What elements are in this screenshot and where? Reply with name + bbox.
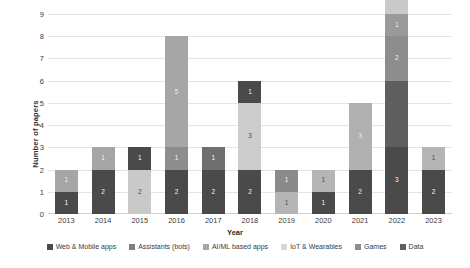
y-axis-tick-0: 0 <box>40 210 44 219</box>
bar-segment-value: 2 <box>432 189 436 196</box>
bar-stack: 21 <box>128 147 151 214</box>
legend-swatch-icon <box>281 244 287 250</box>
bar-segment[interactable]: 1 <box>92 147 115 169</box>
bar-segment[interactable]: 2 <box>385 36 408 80</box>
bar-segment[interactable]: 1 <box>165 147 188 169</box>
bar-segment[interactable]: 2 <box>92 170 115 214</box>
bar-segment-value: 2 <box>138 189 142 196</box>
bar-column-2019[interactable]: 11 <box>268 14 304 214</box>
legend-swatch-icon <box>129 244 135 250</box>
bar-column-2020[interactable]: 11 <box>305 14 341 214</box>
bar-segment-value: 1 <box>248 89 252 96</box>
bar-stack: 3212 <box>385 0 408 214</box>
legend-label: Web & Mobile apps <box>56 243 117 250</box>
stacked-bar-chart: Number of papers 0123456789 112121215212… <box>0 0 470 268</box>
bar-stack: 21 <box>422 147 445 214</box>
bar-segment-value: 2 <box>175 189 179 196</box>
bar-column-2018[interactable]: 231 <box>232 14 268 214</box>
bar-segment[interactable]: 1 <box>312 170 335 192</box>
y-axis-tick-3: 3 <box>40 143 44 152</box>
bar-segment-value: 2 <box>248 189 252 196</box>
legend-label: IoT & Wearables <box>290 243 342 250</box>
legend-item-4[interactable]: Games <box>355 243 387 250</box>
bar-segment[interactable]: 3 <box>349 103 372 170</box>
legend-swatch-icon <box>355 244 361 250</box>
bar-segment[interactable]: 1 <box>385 14 408 36</box>
bar-segment[interactable]: 1 <box>55 170 78 192</box>
bar-segment[interactable]: 1 <box>312 192 335 214</box>
bar-segment-value: 3 <box>358 133 362 140</box>
legend-label: Games <box>364 243 387 250</box>
bar-segment-value: 2 <box>395 55 399 62</box>
bar-segment[interactable] <box>385 81 408 148</box>
bar-segment-value: 3 <box>248 133 252 140</box>
bar-segment[interactable]: 2 <box>202 170 225 214</box>
bar-segment[interactable]: 1 <box>202 147 225 169</box>
bar-segment[interactable]: 5 <box>165 36 188 147</box>
bar-segment-value: 2 <box>101 189 105 196</box>
legend-swatch-icon <box>203 244 209 250</box>
bar-stack: 21 <box>202 147 225 214</box>
bar-segment[interactable]: 2 <box>422 170 445 214</box>
bar-column-2013[interactable]: 11 <box>48 14 84 214</box>
bar-stack: 215 <box>165 36 188 214</box>
bar-column-2017[interactable]: 21 <box>195 14 231 214</box>
bar-segment[interactable]: 2 <box>238 170 261 214</box>
y-axis-tick-5: 5 <box>40 98 44 107</box>
bar-segment[interactable]: 1 <box>422 147 445 169</box>
y-axis-tick-9: 9 <box>40 10 44 19</box>
legend-item-5[interactable]: Data <box>400 243 424 250</box>
bar-column-2015[interactable]: 21 <box>122 14 158 214</box>
plot-area: 0123456789 11212121521231111123321221 <box>28 14 452 214</box>
bar-stack: 11 <box>312 170 335 214</box>
y-axis-tick-2: 2 <box>40 165 44 174</box>
bar-segment[interactable]: 1 <box>275 192 298 214</box>
chart-legend: Web & Mobile appsAssistants (bots)AI/ML … <box>0 243 470 250</box>
bar-segment[interactable]: 2 <box>349 170 372 214</box>
bar-segment[interactable]: 3 <box>385 147 408 214</box>
y-axis-tick-7: 7 <box>40 54 44 63</box>
bar-column-2023[interactable]: 21 <box>415 14 451 214</box>
bar-segment[interactable]: 3 <box>238 103 261 170</box>
y-axis-tick-labels: 0123456789 <box>28 14 46 214</box>
legend-item-3[interactable]: IoT & Wearables <box>281 243 342 250</box>
bar-segment-value: 1 <box>285 177 289 184</box>
bar-column-2014[interactable]: 21 <box>85 14 121 214</box>
bar-column-2022[interactable]: 3212 <box>379 14 415 214</box>
legend-swatch-icon <box>400 244 406 250</box>
y-axis-tick-4: 4 <box>40 121 44 130</box>
y-axis-tick-8: 8 <box>40 32 44 41</box>
bar-column-2021[interactable]: 23 <box>342 14 378 214</box>
bar-segment-value: 1 <box>322 200 326 207</box>
legend-label: Data <box>409 243 424 250</box>
bar-segment[interactable]: 1 <box>275 170 298 192</box>
bar-stack: 231 <box>238 81 261 214</box>
bar-segment-value: 1 <box>211 155 215 162</box>
bar-segment-value: 1 <box>65 200 69 207</box>
bar-segment-value: 1 <box>138 155 142 162</box>
bar-segment[interactable]: 1 <box>128 147 151 169</box>
bar-segment-value: 5 <box>175 89 179 96</box>
legend-item-1[interactable]: Assistants (bots) <box>129 243 190 250</box>
bar-series-container: 11212121521231111123321221 <box>48 14 452 214</box>
legend-label: AI/ML based apps <box>212 243 268 250</box>
grid-area: 11212121521231111123321221 <box>48 14 452 214</box>
y-axis-tick-1: 1 <box>40 187 44 196</box>
legend-item-0[interactable]: Web & Mobile apps <box>47 243 117 250</box>
bar-stack: 11 <box>275 170 298 214</box>
bar-segment-value: 1 <box>175 155 179 162</box>
legend-swatch-icon <box>47 244 53 250</box>
legend-item-2[interactable]: AI/ML based apps <box>203 243 268 250</box>
bar-segment[interactable]: 1 <box>238 81 261 103</box>
bar-segment[interactable]: 2 <box>165 170 188 214</box>
bar-segment-value: 1 <box>285 200 289 207</box>
bar-segment[interactable]: 1 <box>55 192 78 214</box>
bar-segment-value: 2 <box>211 189 215 196</box>
bar-segment-value: 1 <box>432 155 436 162</box>
bar-segment-value: 1 <box>395 22 399 29</box>
bar-column-2016[interactable]: 215 <box>158 14 194 214</box>
bar-segment[interactable]: 2 <box>128 170 151 214</box>
bar-segment[interactable]: 2 <box>385 0 408 14</box>
bar-segment-value: 1 <box>65 177 69 184</box>
bar-segment-value: 1 <box>101 155 105 162</box>
